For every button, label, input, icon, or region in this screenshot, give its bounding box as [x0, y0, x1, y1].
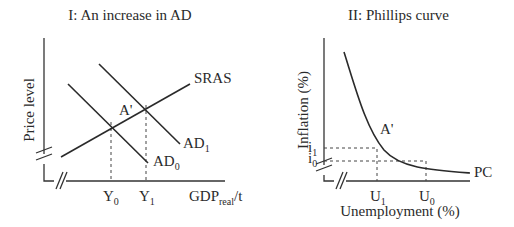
panel-ad: I: An increase in AD Price level SRAS AD… [21, 7, 243, 207]
y1-tick-label: Y1 [139, 188, 155, 207]
ad1-curve [99, 64, 180, 144]
sras-curve [61, 84, 190, 157]
ad1-label: AD1 [183, 135, 210, 154]
x-axis-break-icon [56, 172, 67, 189]
sras-label: SRAS [194, 70, 232, 86]
ad0-label: AD0 [153, 153, 180, 172]
y-axis-label: Inflation (%) [295, 71, 312, 149]
x-axis-label: GDPreal/t [189, 188, 243, 207]
i1-u1-guide [324, 148, 377, 181]
panel-ad-title: I: An increase in AD [68, 7, 191, 23]
panel-phillips-title: II: Phillips curve [348, 7, 449, 23]
y-axis-lower [44, 164, 54, 181]
i0-u0-guide [324, 161, 426, 181]
phillips-curve [344, 52, 470, 173]
diagram-canvas: I: An increase in AD Price level SRAS AD… [0, 0, 514, 227]
x-axis-label: Unemployment (%) [340, 203, 460, 220]
y-axis-label: Price level [21, 78, 37, 142]
pc-label: PC [474, 164, 492, 180]
point-a-prime-label: A' [380, 121, 394, 137]
y0-tick-label: Y0 [103, 188, 119, 207]
point-a-prime-label: A' [119, 102, 133, 118]
ad0-curve [68, 84, 148, 163]
panel-phillips: II: Phillips curve Inflation (%) PC A' i… [295, 7, 492, 220]
x-axis-break-icon [336, 172, 347, 189]
y-axis-lower [324, 175, 334, 181]
